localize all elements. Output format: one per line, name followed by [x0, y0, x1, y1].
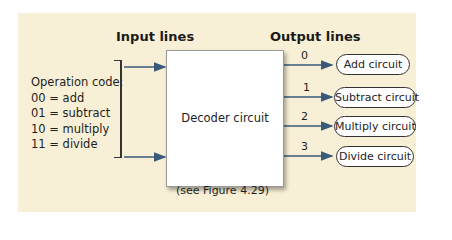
output-line-number: 2: [301, 110, 308, 123]
figure-reference-caption: (see Figure 4.29): [176, 184, 269, 197]
output-line-number: 0: [301, 49, 308, 62]
multiply-circuit-cloud: Multiply circuit: [334, 116, 416, 137]
divide-circuit-cloud: Divide circuit: [336, 146, 414, 167]
output-line-number: 3: [301, 140, 308, 153]
decoder-circuit-label: Decoder circuit: [167, 111, 283, 125]
output-line-number: 1: [303, 81, 310, 94]
subtract-circuit-cloud: Subtract circuit: [334, 87, 416, 108]
add-circuit-cloud: Add circuit: [336, 54, 410, 75]
decoder-circuit-box: Decoder circuit: [166, 50, 284, 187]
